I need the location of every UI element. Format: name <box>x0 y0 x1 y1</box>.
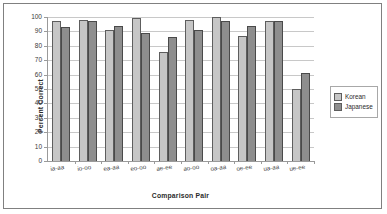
x-axis-tick <box>208 161 209 164</box>
y-axis-tick-label: 50 <box>35 86 42 93</box>
bar-japanese-io-oo <box>88 21 97 161</box>
x-axis-tick <box>75 161 76 164</box>
bar-group <box>75 17 102 161</box>
bar-japanese-oe-ee <box>247 26 256 161</box>
bar-group <box>154 17 181 161</box>
y-axis-tick-label: 80 <box>35 43 42 50</box>
bar-korean-ua-aa <box>265 21 274 161</box>
bar-korean-oa-aa <box>212 17 221 161</box>
bar-korean-io-oo <box>79 20 88 161</box>
bar-group <box>48 17 75 161</box>
bar-japanese-ue-ee <box>301 73 310 161</box>
x-axis-tick <box>154 161 155 164</box>
x-axis-tick-label-ua-aa: ua-aa <box>263 164 280 172</box>
x-axis-tick-label-ea-aa: ea-aa <box>103 164 120 172</box>
bar-group <box>261 17 288 161</box>
x-axis-tick-label-ae-ee: ae-ee <box>156 164 173 172</box>
chart-frame: Percent Correct 0102030405060708090100 i… <box>3 3 382 209</box>
y-axis-tick-label: 60 <box>35 71 42 78</box>
bar-group <box>208 17 235 161</box>
y-axis-tick-label: 10 <box>35 143 42 150</box>
bar-japanese-oa-aa <box>221 21 230 161</box>
y-axis-tick-label: 90 <box>35 28 42 35</box>
legend-swatch-japanese <box>334 103 342 111</box>
bar-korean-ao-oo <box>185 20 194 161</box>
legend-label: Korean <box>345 94 366 100</box>
bar-japanese-ao-oo <box>194 30 203 161</box>
x-axis-title: Comparison Pair <box>47 192 314 199</box>
x-axis-tick <box>261 161 262 164</box>
bar-japanese-ae-ee <box>168 37 177 161</box>
x-axis-tick-label-io-oo: io-oo <box>77 164 91 172</box>
legend-item-japanese: Japanese <box>334 103 373 111</box>
x-axis-tick-label-ia-aa: ia-aa <box>50 164 64 172</box>
bar-korean-ia-aa <box>52 21 61 161</box>
bar-group <box>181 17 208 161</box>
legend-label: Japanese <box>345 104 373 110</box>
x-axis-tick-label-eo-oo: eo-oo <box>130 164 147 172</box>
y-axis-tick-label: 30 <box>35 115 42 122</box>
x-axis-tick-label-ao-oo: ao-oo <box>183 164 200 172</box>
bar-group <box>101 17 128 161</box>
bar-korean-ue-ee <box>292 89 301 161</box>
x-axis-tick <box>314 161 315 164</box>
x-axis-tick <box>287 161 288 164</box>
bar-japanese-eo-oo <box>141 33 150 161</box>
x-axis-tick <box>128 161 129 164</box>
y-axis-tick <box>44 161 48 162</box>
x-axis-tick <box>101 161 102 164</box>
bar-japanese-ea-aa <box>114 26 123 161</box>
y-axis-tick-label: 70 <box>35 57 42 64</box>
legend-swatch-korean <box>334 93 342 101</box>
x-axis-tick-label-oa-aa: oa-aa <box>210 164 227 172</box>
bar-group <box>234 17 261 161</box>
legend-item-korean: Korean <box>334 93 373 101</box>
x-axis-tick <box>234 161 235 164</box>
bar-korean-oe-ee <box>238 36 247 161</box>
bar-group <box>287 17 314 161</box>
y-axis-tick-label: 20 <box>35 129 42 136</box>
x-axis-tick-label-ue-ee: ue-ee <box>289 164 306 172</box>
bar-japanese-ia-aa <box>61 27 70 161</box>
bar-korean-ea-aa <box>105 30 114 161</box>
bar-korean-ae-ee <box>159 52 168 161</box>
chart-legend: KoreanJapanese <box>330 86 378 118</box>
y-axis-tick-label: 100 <box>31 14 42 21</box>
x-axis-tick-label-oe-ee: oe-ee <box>236 164 253 172</box>
y-axis-tick-label: 0 <box>38 158 42 165</box>
x-axis-tick <box>181 161 182 164</box>
plot-area: 0102030405060708090100 <box>47 17 314 162</box>
y-axis-tick-label: 40 <box>35 100 42 107</box>
bar-japanese-ua-aa <box>274 21 283 161</box>
bar-group <box>128 17 155 161</box>
bar-korean-eo-oo <box>132 18 141 161</box>
